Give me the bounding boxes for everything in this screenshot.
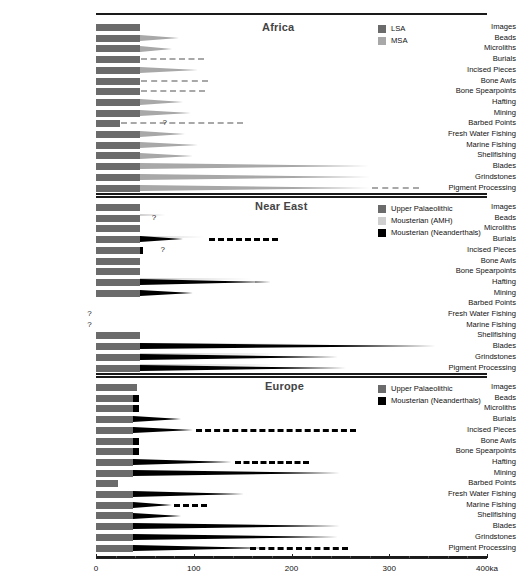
bar-lsa: [96, 110, 140, 117]
bar-lsa: [96, 67, 140, 74]
bar-upper-palaeolithic: [96, 416, 133, 423]
bar-mousterian-neanderthals-: [133, 459, 232, 465]
x-axis-tick: [272, 556, 273, 559]
bar-row: [96, 404, 487, 413]
bar-lsa: [96, 163, 140, 170]
bar-lsa: [96, 35, 140, 42]
bar-upper-palaeolithic: [96, 470, 133, 477]
bar-upper-palaeolithic: [96, 354, 140, 361]
x-axis-line: [96, 558, 487, 559]
bar-head: [133, 438, 139, 445]
x-axis-tick: [350, 556, 351, 559]
bar-upper-palaeolithic: [96, 545, 133, 552]
bar-dashed-extension: [235, 461, 309, 464]
x-axis-tick: [96, 554, 97, 558]
bar-upper-palaeolithic: [96, 215, 140, 222]
question-mark-annotation: ?: [87, 309, 91, 318]
x-axis-tick: [233, 556, 234, 559]
panel-top-rule: [96, 13, 487, 15]
bar-row: [96, 141, 487, 150]
bar-row: [96, 87, 487, 96]
bar-row: [96, 533, 487, 542]
bar-msa: [140, 99, 183, 105]
bar-upper-palaeolithic: [96, 491, 133, 498]
bar-lsa: [96, 99, 140, 106]
bar-head: [133, 405, 139, 412]
bar-head: [133, 448, 139, 455]
bar-dashed-extension: [250, 547, 348, 550]
x-axis-tick: [448, 556, 449, 559]
bar-head: [140, 247, 143, 254]
bar-row: [96, 44, 487, 53]
bar-row: [96, 109, 487, 118]
x-axis-tick: [467, 556, 468, 559]
bar-lsa: [96, 78, 140, 85]
bar-lsa: [96, 131, 140, 138]
bar-head: [133, 395, 139, 402]
bar-row: [96, 415, 487, 424]
bar-mousterian-neanderthals-: [140, 279, 271, 285]
x-axis-tick: [213, 556, 214, 559]
bar-row: [96, 267, 487, 276]
bar-row: [96, 383, 487, 392]
bar-lsa: [96, 56, 140, 63]
bar-row: [96, 130, 487, 139]
bar-upper-palaeolithic: [96, 236, 140, 243]
bar-row: ?: [96, 321, 487, 330]
panel-top-rule: [96, 193, 487, 195]
x-axis-tick: [194, 554, 195, 558]
bar-dashed-extension: [141, 58, 204, 60]
bar-upper-palaeolithic: [96, 225, 140, 232]
bar-upper-palaeolithic: [96, 502, 133, 509]
x-axis-tick-label: 200: [267, 564, 317, 573]
bar-upper-palaeolithic: [96, 523, 133, 530]
bar-row: [96, 77, 487, 86]
x-axis-tick-label: 300: [364, 564, 414, 573]
bar-upper-palaeolithic: [96, 534, 133, 541]
bar-row: [96, 469, 487, 478]
bar-row: [96, 479, 487, 488]
bar-mousterian-neanderthals-: [133, 427, 193, 433]
bar-row: [96, 353, 487, 362]
bar-upper-palaeolithic: [96, 365, 140, 372]
bar-dashed-extension: [372, 187, 419, 189]
bar-upper-palaeolithic: [96, 438, 133, 445]
bar-upper-palaeolithic: [96, 395, 133, 402]
bar-upper-palaeolithic: [96, 384, 137, 391]
bar-row: ?: [96, 310, 487, 319]
bar-msa: [140, 174, 370, 180]
bar-msa: [140, 163, 369, 169]
bar-row: [96, 447, 487, 456]
x-axis-tick: [331, 556, 332, 559]
bar-row: [96, 437, 487, 446]
question-mark-annotation: ?: [87, 320, 91, 329]
bar-mousterian-neanderthals-: [140, 236, 183, 242]
bar-upper-palaeolithic: [96, 427, 133, 434]
bar-lsa: [96, 142, 140, 149]
bar-row: [96, 426, 487, 435]
bar-msa: [140, 35, 179, 41]
bar-row: [96, 23, 487, 32]
bar-msa: [140, 67, 198, 73]
bar-mousterian-neanderthals-: [140, 354, 338, 360]
panel-africa: AfricaLSAMSAImagesBeadsMicrolithsBurials…: [0, 12, 519, 201]
bar-lsa: [96, 185, 140, 192]
bar-row: ?: [96, 119, 487, 128]
bar-lsa: [96, 152, 140, 159]
bar-row: [96, 490, 487, 499]
bar-lsa: [96, 24, 140, 31]
bar-row: [96, 224, 487, 233]
x-axis-tick: [370, 556, 371, 559]
bar-row: [96, 203, 487, 212]
bar-row: [96, 235, 487, 244]
bar-row: [96, 501, 487, 510]
bar-msa: [140, 46, 172, 52]
bar-msa: [140, 110, 191, 116]
bar-upper-palaeolithic: [96, 459, 133, 466]
x-axis-tick: [116, 556, 117, 559]
bar-row: [96, 34, 487, 43]
bar-row: [96, 173, 487, 182]
bar-row: [96, 289, 487, 298]
bar-row: [96, 162, 487, 171]
x-axis-tick: [135, 556, 136, 559]
